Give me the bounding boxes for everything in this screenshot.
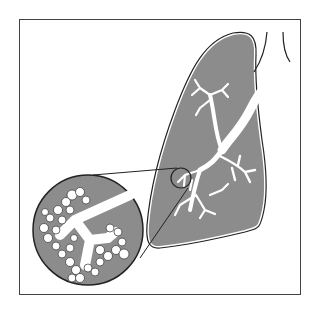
trachea <box>254 32 290 72</box>
alveoli-inset <box>33 175 143 285</box>
lung <box>147 32 266 248</box>
lung-illustration <box>0 0 317 312</box>
